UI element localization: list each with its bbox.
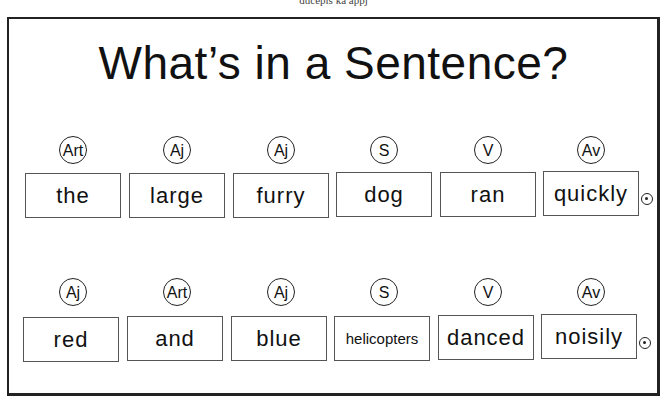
cropped-header-text: ducepis ka appj bbox=[0, 0, 667, 6]
word-card[interactable]: quickly bbox=[543, 171, 639, 216]
pos-tag: Aj bbox=[267, 278, 295, 306]
pos-tag: Art bbox=[163, 278, 191, 306]
word-card[interactable]: furry bbox=[233, 173, 329, 218]
word-card[interactable]: dog bbox=[336, 172, 432, 217]
pos-tag: Aj bbox=[163, 136, 191, 164]
end-dot-icon bbox=[641, 193, 653, 205]
pos-tag: S bbox=[370, 278, 398, 306]
word-card[interactable]: red bbox=[23, 317, 119, 362]
pos-tag: S bbox=[370, 136, 398, 164]
word-card[interactable]: ran bbox=[440, 172, 536, 217]
page-title: What’s in a Sentence? bbox=[0, 36, 667, 90]
pos-tag: V bbox=[474, 278, 502, 306]
pos-tag: Aj bbox=[59, 278, 87, 306]
word-card[interactable]: large bbox=[129, 173, 225, 218]
pos-tag: Av bbox=[577, 136, 605, 164]
word-card[interactable]: blue bbox=[231, 316, 327, 361]
pos-tag: Aj bbox=[267, 136, 295, 164]
pos-tag: Av bbox=[577, 278, 605, 306]
word-card[interactable]: helicopters bbox=[334, 316, 430, 361]
word-card[interactable]: danced bbox=[438, 315, 534, 360]
end-dot-icon bbox=[639, 337, 651, 349]
pos-tag: V bbox=[474, 136, 502, 164]
pos-tag: Art bbox=[59, 136, 87, 164]
word-card[interactable]: and bbox=[127, 316, 223, 361]
word-card[interactable]: noisily bbox=[541, 314, 637, 359]
word-card[interactable]: the bbox=[25, 173, 121, 218]
